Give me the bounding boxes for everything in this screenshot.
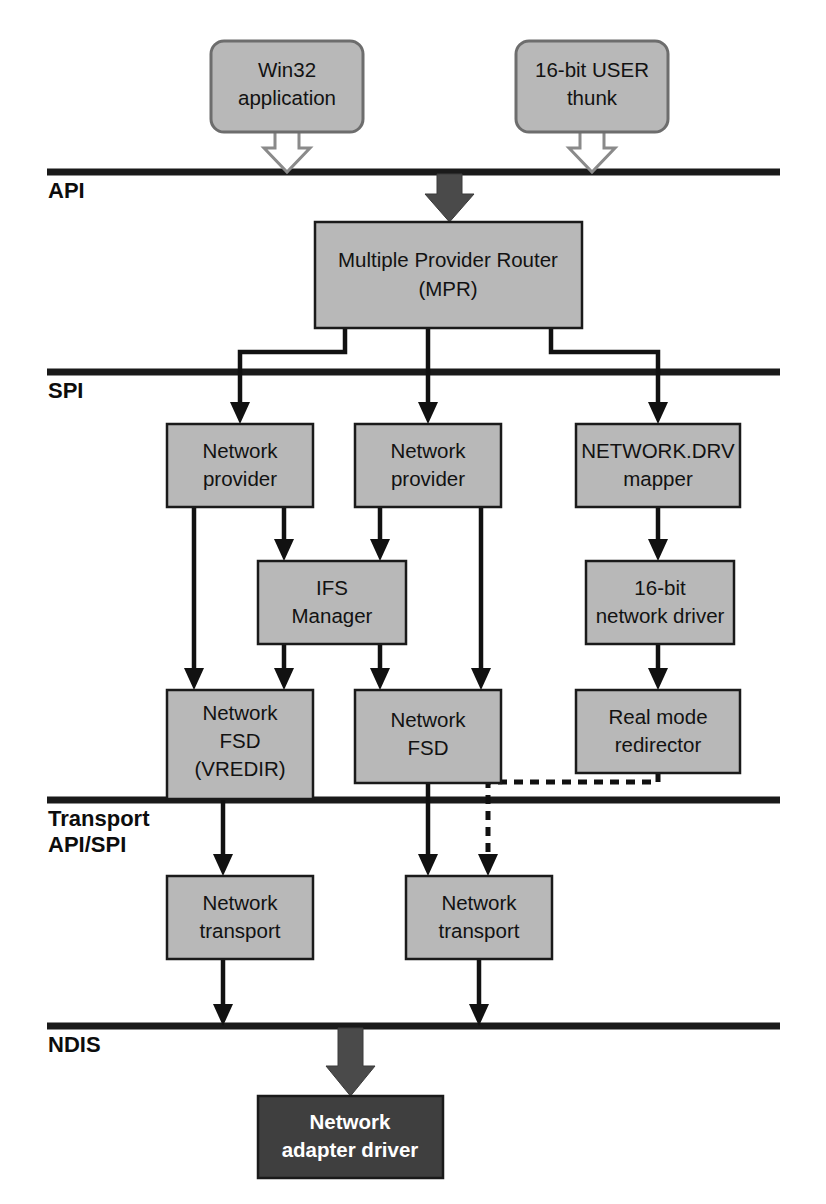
node-network-transport-right-label-line2: transport — [439, 919, 520, 942]
node-sixteen-bit-network-driver-label-line2: network driver — [596, 604, 725, 627]
node-network-provider-left[interactable]: Network provider — [167, 424, 313, 507]
node-real-mode-redirector-label-line2: redirector — [615, 733, 702, 756]
node-network-adapter-driver-box — [258, 1096, 443, 1178]
node-ifs-manager-box — [258, 561, 406, 644]
node-network-fsd-vredir-label-line3: (VREDIR) — [194, 757, 285, 780]
node-sixteen-bit-network-driver[interactable]: 16-bit network driver — [586, 561, 734, 644]
node-network-fsd-label-line2: FSD — [408, 736, 449, 759]
node-network-adapter-driver-label-line1: Network — [310, 1110, 391, 1133]
layer-label-ndis: NDIS — [48, 1032, 101, 1057]
node-network-adapter-driver-label-line2: adapter driver — [282, 1138, 419, 1161]
layer-label-transport: Transport — [48, 806, 150, 831]
node-network-provider-left-label-line2: provider — [203, 467, 277, 490]
network-architecture-diagram: API SPI Transport API/SPI NDIS — [0, 0, 826, 1204]
layer-label-transport-second-line: API/SPI — [48, 832, 126, 857]
node-network-provider-center[interactable]: Network provider — [355, 424, 501, 507]
node-network-drv-mapper-box — [576, 424, 740, 507]
node-network-fsd[interactable]: Network FSD — [355, 690, 501, 783]
node-network-provider-center-label-line1: Network — [390, 439, 466, 462]
layer-label-spi: SPI — [48, 378, 83, 403]
node-network-drv-mapper-label-line2: mapper — [623, 467, 693, 490]
node-network-fsd-vredir[interactable]: Network FSD (VREDIR) — [167, 690, 313, 799]
node-network-transport-left-label-line1: Network — [202, 891, 278, 914]
node-sixteen-bit-network-driver-box — [586, 561, 734, 644]
node-network-fsd-label-line1: Network — [390, 708, 466, 731]
node-network-transport-right[interactable]: Network transport — [406, 876, 552, 959]
node-network-transport-left[interactable]: Network transport — [167, 876, 313, 959]
node-network-transport-right-label-line1: Network — [441, 891, 517, 914]
node-win32-application-label-line2: application — [238, 86, 336, 109]
node-network-drv-mapper[interactable]: NETWORK.DRV mapper — [576, 424, 740, 507]
node-network-provider-center-label-line2: provider — [391, 467, 465, 490]
node-ifs-manager-label-line2: Manager — [292, 604, 373, 627]
node-network-provider-left-label-line1: Network — [202, 439, 278, 462]
node-network-provider-left-box — [167, 424, 313, 507]
node-multiple-provider-router-label-line2: (MPR) — [418, 277, 477, 300]
node-network-drv-mapper-label-line1: NETWORK.DRV — [581, 439, 735, 462]
node-network-adapter-driver[interactable]: Network adapter driver — [258, 1096, 443, 1178]
node-network-provider-center-box — [355, 424, 501, 507]
node-multiple-provider-router[interactable]: Multiple Provider Router (MPR) — [315, 222, 582, 328]
node-network-transport-left-label-line2: transport — [200, 919, 281, 942]
node-ifs-manager-label-line1: IFS — [316, 576, 348, 599]
node-sixteen-bit-user-thunk[interactable]: 16-bit USER thunk — [516, 41, 668, 132]
node-win32-application-label-line1: Win32 — [258, 58, 316, 81]
node-network-fsd-vredir-label-line1: Network — [202, 701, 278, 724]
node-real-mode-redirector-box — [576, 690, 740, 773]
node-sixteen-bit-user-thunk-label-line2: thunk — [567, 86, 618, 109]
node-sixteen-bit-network-driver-label-line1: 16-bit — [634, 576, 686, 599]
node-win32-application[interactable]: Win32 application — [211, 41, 363, 132]
node-network-transport-left-box — [167, 876, 313, 959]
node-multiple-provider-router-label-line1: Multiple Provider Router — [338, 248, 558, 271]
node-multiple-provider-router-box — [315, 222, 582, 328]
layer-label-api: API — [48, 178, 85, 203]
node-network-fsd-vredir-label-line2: FSD — [220, 729, 261, 752]
node-ifs-manager[interactable]: IFS Manager — [258, 561, 406, 644]
node-real-mode-redirector[interactable]: Real mode redirector — [576, 690, 740, 773]
node-real-mode-redirector-label-line1: Real mode — [608, 705, 707, 728]
node-sixteen-bit-user-thunk-label-line1: 16-bit USER — [535, 58, 649, 81]
node-network-transport-right-box — [406, 876, 552, 959]
